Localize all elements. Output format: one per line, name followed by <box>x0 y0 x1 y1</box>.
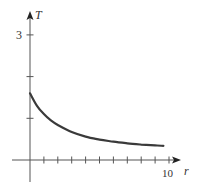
chart: T r 3 10 <box>0 0 197 192</box>
x-tick-label-10: 10 <box>162 167 174 179</box>
x-axis-label: r <box>184 164 189 178</box>
data-curve <box>30 93 163 146</box>
y-tick-label-3: 3 <box>16 28 22 42</box>
y-axis-label: T <box>35 8 43 22</box>
axes <box>12 11 181 182</box>
